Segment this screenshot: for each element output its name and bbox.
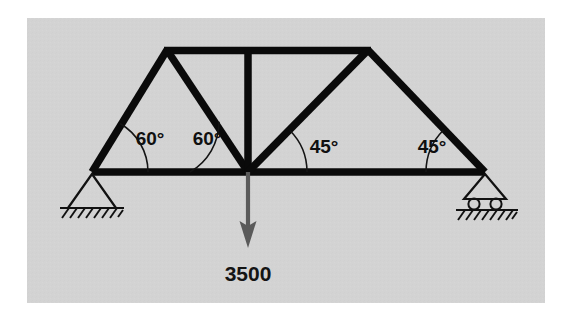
truss-diagram-figure: 60° 60° 45° 45° 3500: [0, 0, 573, 321]
figure-panel-texture: [27, 18, 545, 303]
angle-label-center-left: 60°: [193, 128, 222, 149]
angle-label-left-support: 60°: [136, 128, 165, 149]
truss-diagram-canvas: 60° 60° 45° 45° 3500: [0, 0, 573, 321]
angle-label-center-right: 45°: [310, 136, 339, 157]
load-value-label: 3500: [225, 262, 272, 285]
angle-label-right-support: 45°: [418, 136, 447, 157]
